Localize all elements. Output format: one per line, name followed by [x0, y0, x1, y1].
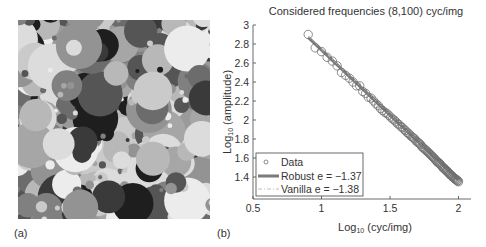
y-tick-label: 1.6 [234, 152, 249, 164]
legend-item-robust: Robust e = −1.37 [281, 170, 362, 182]
x-tick-label: 0.5 [246, 202, 261, 214]
y-tick-label: 2.2 [234, 95, 249, 107]
legend-item-vanilla: Vanilla e = −1.38 [281, 183, 359, 195]
y-tick-label: 2 [243, 114, 249, 126]
y-tick-label: 2.6 [234, 57, 249, 69]
x-axis-label: Log10 (cyc/img) [338, 221, 412, 234]
chart-title: Considered frequencies (8,100) cyc/img [269, 5, 463, 17]
legend: Data Robust e = −1.37 Vanilla e = −1.38 [256, 153, 363, 196]
x-tick-label: 1 [319, 202, 325, 214]
x-tick-label: 2 [456, 202, 462, 214]
y-tick-label: 2.4 [234, 76, 249, 88]
y-tick-label: 2.8 [234, 38, 249, 50]
y-tick-label: 3 [243, 19, 249, 31]
y-tick-label: 1.8 [234, 133, 249, 145]
x-tick-label: 1.5 [383, 202, 398, 214]
frequency-amplitude-chart: Considered frequencies (8,100) cyc/img 0… [0, 0, 486, 247]
y-tick-label: 1.4 [234, 171, 249, 183]
legend-item-data: Data [281, 156, 303, 168]
y-axis-label: Log10 (amplitude) [221, 70, 234, 154]
